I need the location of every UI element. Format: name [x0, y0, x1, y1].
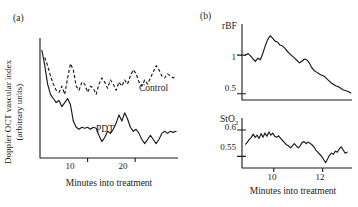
panel-a-x-ticks — [88, 158, 136, 162]
panel-a-axes — [40, 38, 178, 158]
sto2-curve — [246, 132, 347, 163]
panel-a-pdt-curve — [42, 50, 176, 143]
plot-surface — [0, 0, 358, 207]
rbf-curve — [246, 36, 351, 93]
panel-a-control-curve — [45, 57, 176, 94]
figure-container: (a) (b) Doppler OCT vascular index (arbi… — [0, 0, 358, 207]
rbf-axes — [242, 24, 352, 100]
sto2-ticks — [237, 130, 323, 172]
sto2-axes — [242, 118, 352, 168]
